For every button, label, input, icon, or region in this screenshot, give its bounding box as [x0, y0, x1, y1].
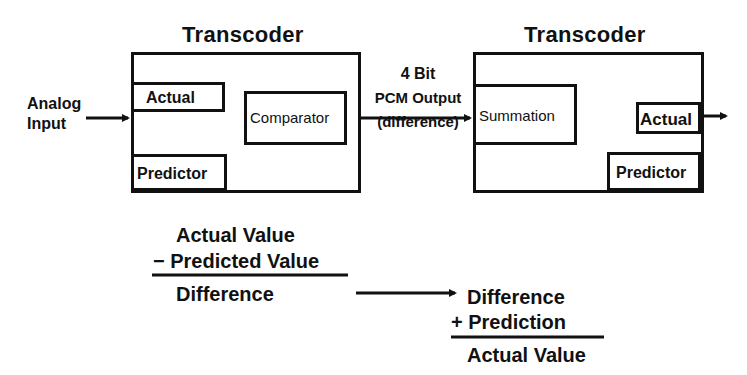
pcm-difference-label: (difference) [368, 110, 468, 134]
analog-label: Analog [27, 94, 81, 114]
summation-block: Summation [473, 84, 577, 145]
encoder-actual-label: Actual [146, 89, 195, 107]
decode-difference: Difference [467, 286, 565, 309]
input-label: Input [27, 114, 81, 134]
encode-difference-result: Difference [176, 283, 274, 306]
decoder-actual-label: Actual [640, 110, 692, 130]
encoder-actual-block: Actual [131, 82, 225, 112]
encoder-title: Transcoder [182, 22, 304, 48]
plus-operator: + [451, 311, 463, 333]
summation-label: Summation [479, 107, 555, 124]
pcm-output-label: PCM Output [368, 86, 468, 110]
pcm-bits-label: 4 Bit [368, 62, 468, 86]
encode-subtraction-line: − Predicted Value [153, 250, 319, 273]
comparator-block: Comparator [244, 91, 347, 145]
minus-operator: − [153, 250, 165, 272]
pcm-link-label: 4 Bit PCM Output (difference) [368, 62, 468, 134]
analog-input-label: Analog Input [27, 94, 81, 134]
encode-actual-value: Actual Value [176, 224, 295, 247]
comparator-label: Comparator [250, 109, 329, 126]
encoder-predictor-label: Predictor [137, 165, 207, 183]
decode-addition-line: + Prediction [451, 311, 566, 334]
decoder-predictor-label: Predictor [616, 164, 686, 182]
decoder-title: Transcoder [524, 22, 646, 48]
decode-prediction: Prediction [468, 311, 566, 333]
encoder-predictor-block: Predictor [131, 154, 227, 191]
decoder-predictor-block: Predictor [607, 152, 701, 191]
decoder-actual-block: Actual [636, 102, 701, 134]
decode-actual-value-result: Actual Value [467, 344, 586, 367]
encode-predicted-value: Predicted Value [170, 250, 319, 272]
